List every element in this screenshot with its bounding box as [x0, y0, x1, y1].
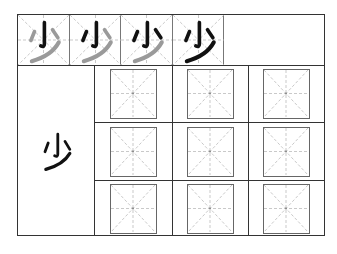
- practice-box-r2-c1[interactable]: [110, 127, 157, 177]
- practice-box-r1-c2[interactable]: [187, 69, 234, 119]
- mi-grid-guide-icon: [111, 70, 155, 117]
- model-character: 少: [18, 66, 95, 236]
- stroke-order-glyph: [18, 15, 69, 65]
- practice-box-r1-c1[interactable]: [110, 69, 157, 119]
- practice-box-r3-c1[interactable]: [110, 184, 157, 234]
- column-divider-2: [172, 66, 173, 236]
- practice-box-r3-c2[interactable]: [187, 184, 234, 234]
- practice-box-r2-c3[interactable]: [263, 127, 310, 177]
- stroke-order-glyph: [173, 15, 224, 65]
- stroke-order-glyph: [121, 15, 172, 65]
- practice-box-r2-c2[interactable]: [187, 127, 234, 177]
- row-divider-2: [95, 180, 324, 181]
- practice-box-r1-c3[interactable]: [263, 69, 310, 119]
- mi-grid-guide-icon: [264, 185, 308, 232]
- stroke-order-cell-1: [18, 15, 70, 66]
- model-character-glyph: [37, 129, 77, 173]
- column-divider-3: [248, 66, 249, 236]
- mi-grid-guide-icon: [188, 185, 232, 232]
- stroke-order-cell-3: [121, 15, 173, 66]
- stroke-order-cell-2: [70, 15, 122, 66]
- worksheet: 少: [17, 14, 325, 236]
- practice-box-r3-c3[interactable]: [263, 184, 310, 234]
- stroke-order-cell-4: [173, 15, 225, 66]
- mi-grid-guide-icon: [188, 70, 232, 117]
- row-divider-1: [95, 122, 324, 123]
- mi-grid-guide-icon: [188, 128, 232, 175]
- mi-grid-guide-icon: [111, 185, 155, 232]
- mi-grid-guide-icon: [264, 128, 308, 175]
- mi-grid-guide-icon: [264, 70, 308, 117]
- stroke-order-glyph: [70, 15, 121, 65]
- mi-grid-guide-icon: [111, 128, 155, 175]
